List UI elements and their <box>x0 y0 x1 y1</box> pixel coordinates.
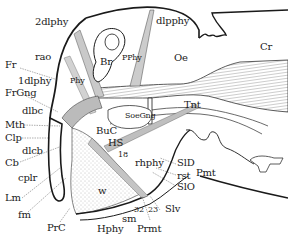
label-cb: Cb <box>5 158 19 168</box>
label-18: 18 <box>118 151 128 159</box>
label-cplr: cplr <box>18 173 37 183</box>
dlpphy-muscle <box>130 10 154 86</box>
label-w: w <box>98 186 106 196</box>
salivary-duct <box>186 130 254 164</box>
label-lm: Lm <box>5 193 21 203</box>
label-dlbc: dlbc <box>22 106 43 116</box>
label-fm: fm <box>18 210 31 220</box>
label-cr: Cr <box>260 42 272 52</box>
label-hphy: Hphy <box>97 224 123 234</box>
label-rhphy: rhphy <box>135 158 164 168</box>
label-sm: sm <box>122 214 136 224</box>
label-frgng: FrGng <box>5 88 37 98</box>
label-br: Br <box>100 57 112 67</box>
label-tnt: Tnt <box>184 100 201 110</box>
label-pmt: Pmt <box>196 168 216 178</box>
label-slv: Slv <box>165 204 180 214</box>
label-pphy: PPhy <box>122 54 142 62</box>
label-soegng: SoeGng <box>125 112 156 120</box>
label-prmt: Prmt <box>137 224 161 234</box>
diagram-canvas: 2dlphy dlpphy rao Fr Br PPhy Oe Cr 1dlph… <box>0 0 288 237</box>
label-buc: BuC <box>96 126 117 136</box>
label-prc: PrC <box>47 223 66 233</box>
labrum-lobe <box>49 118 65 201</box>
salivary-duct-lower <box>200 176 288 198</box>
label-clp: Clp <box>5 133 22 143</box>
label-hs: HS <box>108 138 123 148</box>
label-fr: Fr <box>5 60 16 70</box>
label-rao: rao <box>35 52 51 62</box>
label-sld: SlD <box>177 158 194 168</box>
salivary-reservoir <box>250 156 283 172</box>
label-23: 23 <box>148 206 158 214</box>
label-oe: Oe <box>174 53 188 63</box>
label-slo: SlO <box>177 182 195 192</box>
label-dlpphy: dlpphy <box>156 16 189 26</box>
label-rst: rst <box>177 171 190 181</box>
label-2dlphy: 2dlphy <box>35 17 68 27</box>
neck-membrane <box>199 10 288 38</box>
label-mth: Mth <box>5 120 25 130</box>
label-phy: Phy <box>70 77 84 85</box>
label-1dlphy: 1dlphy <box>18 76 51 86</box>
label-dlcb: dlcb <box>22 146 43 156</box>
